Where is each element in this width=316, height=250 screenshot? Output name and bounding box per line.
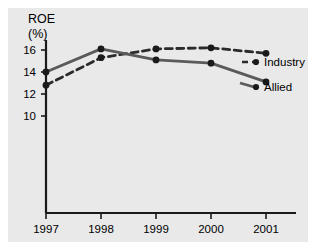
chart-page: ROE (%) 16 14 12 10 1997 1998 1999 2000 … [0,0,316,250]
x-tick-label-1998: 1998 [88,223,114,235]
data-point-industry-1997 [43,82,50,89]
series-layer [43,44,270,88]
data-point-allied-1997 [43,69,50,76]
y-axis-title: ROE [28,12,55,26]
x-tick-label-2001: 2001 [253,223,279,235]
legend-entry-industry: Industry [242,56,305,68]
data-point-allied-1998 [98,46,105,53]
data-point-industry-1999 [153,46,160,53]
legend-industry-marker [253,59,259,65]
data-point-allied-2000 [208,60,215,67]
y-tick-label-12: 12 [23,88,36,100]
series-line-industry [46,48,266,85]
legend: Industry Allied [240,56,305,93]
roe-line-chart: ROE (%) 16 14 12 10 1997 1998 1999 2000 … [0,0,316,250]
y-tick-label-16: 16 [23,44,36,56]
legend-allied-marker [253,84,259,90]
y-axis-subtitle: (%) [28,27,47,41]
series-line-allied [46,49,266,82]
data-point-allied-1999 [153,57,160,64]
x-tick-label-1999: 1999 [143,223,169,235]
y-tick-label-14: 14 [23,66,36,78]
legend-allied-label: Allied [264,81,292,93]
legend-entry-allied: Allied [240,81,292,93]
data-point-industry-1998 [98,54,105,61]
legend-industry-label: Industry [264,56,305,68]
data-point-industry-2000 [208,44,215,51]
legend-allied-line [240,83,254,87]
y-tick-label-10: 10 [23,110,36,122]
x-tick-label-2000: 2000 [198,223,224,235]
x-tick-label-1997: 1997 [33,223,59,235]
